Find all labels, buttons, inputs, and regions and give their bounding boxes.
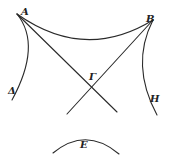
label-Gamma: Γ xyxy=(88,71,97,82)
label-A: A xyxy=(20,6,29,17)
arc-AB xyxy=(17,14,153,40)
diagram-canvas: A B Γ Δ H E xyxy=(0,0,173,161)
label-H: H xyxy=(149,93,160,104)
label-B: B xyxy=(145,13,154,24)
label-Delta: Δ xyxy=(7,85,16,96)
line-B-Gamma xyxy=(67,20,153,114)
label-E: E xyxy=(79,139,88,150)
line-A-Gamma xyxy=(17,14,117,112)
